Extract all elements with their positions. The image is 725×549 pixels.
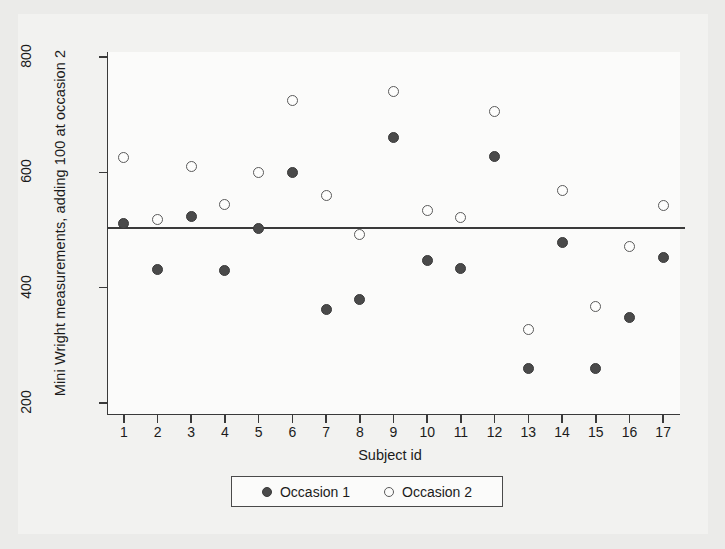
x-tick-mark [662,415,664,423]
data-point [624,241,635,252]
data-point [321,304,332,315]
x-tick-label: 15 [581,424,611,440]
data-point [388,86,399,97]
x-tick-label: 13 [513,424,543,440]
data-point [422,205,433,216]
plot-data-area [107,52,680,415]
y-tick-label: 400 [18,257,34,317]
figure-container: Mini Wright measurements, adding 100 at … [0,0,725,549]
x-tick-label: 7 [311,424,341,440]
x-tick-label: 4 [210,424,240,440]
x-tick-label: 10 [412,424,442,440]
x-tick-label: 1 [109,424,139,440]
x-tick-label: 16 [614,424,644,440]
x-tick-label: 6 [277,424,307,440]
y-tick-mark [99,287,107,289]
x-tick-label: 2 [143,424,173,440]
data-point [118,218,129,229]
data-point [388,132,399,143]
data-point [287,167,298,178]
data-point [354,229,365,240]
x-tick-mark [157,415,159,423]
x-tick-label: 14 [547,424,577,440]
data-point [422,255,433,266]
y-tick-mark [99,56,107,58]
x-tick-label: 12 [480,424,510,440]
data-point [489,106,500,117]
x-tick-mark [258,415,260,423]
legend-entry[interactable]: Occasion 1 [262,484,350,500]
filled-circle-icon [262,487,272,497]
legend-label: Occasion 1 [280,484,350,500]
data-point [152,264,163,275]
x-tick-mark [460,415,462,423]
x-tick-mark [528,415,530,423]
y-tick-label: 200 [18,372,34,432]
data-point [523,363,534,374]
x-tick-mark [325,415,327,423]
x-tick-mark [629,415,631,423]
x-tick-mark [224,415,226,423]
data-point [624,312,635,323]
data-point [455,212,466,223]
data-point [523,324,534,335]
x-tick-label: 9 [379,424,409,440]
data-point [557,185,568,196]
x-tick-mark [190,415,192,423]
x-tick-mark [561,415,563,423]
y-tick-label: 800 [18,26,34,86]
data-point [590,363,601,374]
data-point [557,237,568,248]
x-tick-label: 11 [446,424,476,440]
data-point [287,95,298,106]
data-point [186,161,197,172]
x-axis-label: Subject id [100,447,680,463]
x-tick-mark [292,415,294,423]
y-tick-label: 600 [18,141,34,201]
y-tick-mark [99,172,107,174]
data-point [321,190,332,201]
data-point [253,223,264,234]
x-tick-label: 8 [345,424,375,440]
x-tick-label: 3 [176,424,206,440]
x-tick-label: 17 [648,424,678,440]
x-tick-mark [359,415,361,423]
data-point [455,263,466,274]
data-point [489,151,500,162]
y-axis-label: Mini Wright measurements, adding 100 at … [52,13,68,433]
data-point [219,199,230,210]
chart-legend: Occasion 1Occasion 2 [231,476,503,507]
y-tick-mark [99,402,107,404]
x-tick-label: 5 [244,424,274,440]
x-tick-mark [595,415,597,423]
x-tick-mark [494,415,496,423]
x-tick-mark [426,415,428,423]
legend-label: Occasion 2 [402,484,472,500]
data-point [354,294,365,305]
data-point [658,252,669,263]
x-tick-mark [393,415,395,423]
data-point [152,214,163,225]
data-point [219,265,230,276]
data-point [658,200,669,211]
data-point [590,301,601,312]
open-circle-icon [384,487,394,497]
legend-entry[interactable]: Occasion 2 [384,484,472,500]
data-point [186,211,197,222]
data-point [118,152,129,163]
data-point [253,167,264,178]
x-tick-mark [123,415,125,423]
